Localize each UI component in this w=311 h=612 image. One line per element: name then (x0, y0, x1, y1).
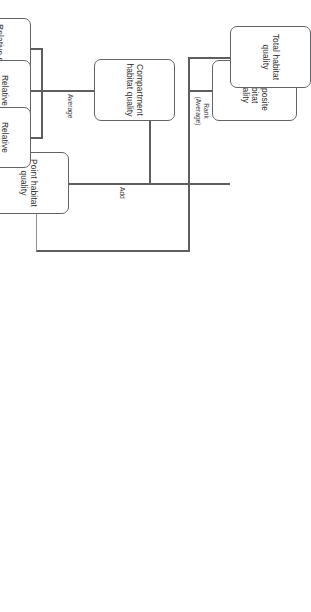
connector-bus-to-landscape4 (36, 250, 190, 252)
flowchart-canvas: Composite habitat quality Total habitat … (0, 0, 302, 612)
node-compartment-habitat-quality[interactable]: Compartment habitat quality (94, 59, 175, 121)
edge-label-rank-average: Rank (Average) (195, 95, 210, 127)
connector-compartment-down (42, 90, 94, 92)
edge-label-average-compartment: Average (66, 93, 74, 119)
edge-label-add: Add (118, 186, 126, 200)
connector-add-to-point (69, 183, 151, 185)
node-relative-integrity[interactable]: Relative integrity (0, 107, 31, 168)
connector-compartment-fanout (41, 48, 43, 138)
connector-fan-relative-edginess (31, 90, 43, 92)
connector-rank-bus (188, 57, 190, 251)
flowchart-figure: Composite habitat quality Total habitat … (0, 0, 302, 612)
node-label: Compartment habitat quality (125, 63, 145, 117)
node-label: Relative integrity (0, 111, 9, 164)
connector-total-to-bus (189, 57, 230, 59)
connector-fan-relative-size (31, 48, 43, 50)
connector-composite-stub (189, 90, 212, 92)
connector-fan-relative-integrity (31, 137, 43, 139)
connector-add-bus (149, 125, 151, 183)
node-label: Total habitat quality (261, 30, 281, 84)
node-total-habitat-quality-box-final[interactable]: Total habitat quality (230, 26, 302, 88)
connector-total-down (150, 183, 230, 185)
